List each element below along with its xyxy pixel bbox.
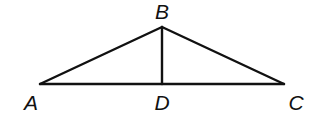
label-d: D <box>154 91 169 114</box>
label-c: C <box>288 91 304 114</box>
label-b: B <box>155 0 169 23</box>
label-a: A <box>22 91 38 114</box>
triangle-diagram: B A D C <box>0 0 323 118</box>
segment-ab <box>40 27 162 84</box>
segment-bc <box>162 27 284 84</box>
